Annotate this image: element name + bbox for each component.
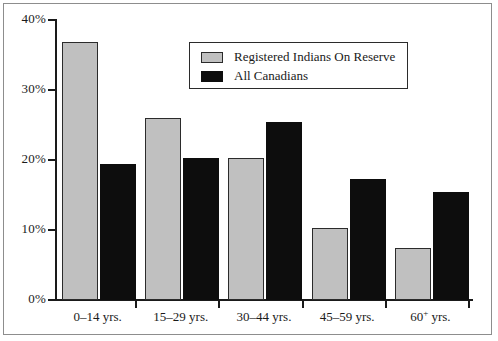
bar bbox=[228, 158, 264, 300]
x-axis-tick-label: 60+ yrs. bbox=[389, 309, 472, 325]
legend-label-series-a: Registered Indians On Reserve bbox=[234, 49, 395, 65]
bar bbox=[145, 118, 181, 300]
bar bbox=[350, 179, 386, 300]
bar bbox=[100, 164, 136, 300]
x-axis-tick bbox=[385, 300, 387, 308]
bar bbox=[266, 122, 302, 300]
x-axis-tick-label: 30–44 yrs. bbox=[222, 309, 305, 325]
y-axis-tick-label: 20% bbox=[2, 151, 46, 167]
x-axis-tick bbox=[468, 300, 470, 308]
x-axis-tick bbox=[302, 300, 304, 308]
y-axis-tick-label: 30% bbox=[2, 81, 46, 97]
y-axis-tick-label: 40% bbox=[2, 11, 46, 27]
y-axis-tick bbox=[48, 299, 57, 301]
x-axis-tick-label: 15–29 yrs. bbox=[139, 309, 222, 325]
y-axis-tick bbox=[48, 229, 57, 231]
legend-label-series-b: All Canadians bbox=[234, 68, 308, 84]
y-axis-tick bbox=[48, 19, 57, 21]
legend-entry-all-canadians: All Canadians bbox=[201, 67, 407, 85]
y-axis-tick bbox=[48, 89, 57, 91]
x-axis-tick bbox=[218, 300, 220, 308]
chart-legend: Registered Indians On Reserve All Canadi… bbox=[189, 42, 408, 89]
bar bbox=[183, 158, 219, 300]
gray-swatch-icon bbox=[201, 52, 223, 63]
x-axis-tick bbox=[135, 300, 137, 308]
legend-entry-registered-indians-on-reserve: Registered Indians On Reserve bbox=[201, 48, 407, 66]
chart-figure: 0%10%20%30%40% 0–14 yrs.15–29 yrs.30–44 … bbox=[0, 0, 498, 341]
y-axis-tick-label: 0% bbox=[2, 291, 46, 307]
bar bbox=[433, 192, 469, 300]
y-axis-tick bbox=[48, 159, 57, 161]
bar bbox=[62, 42, 98, 300]
bar bbox=[395, 248, 431, 300]
x-axis-tick-label: 45–59 yrs. bbox=[306, 309, 389, 325]
black-swatch-icon bbox=[201, 71, 223, 82]
x-axis-tick-label: 0–14 yrs. bbox=[56, 309, 139, 325]
y-axis-tick-label: 10% bbox=[2, 221, 46, 237]
bar bbox=[312, 228, 348, 300]
